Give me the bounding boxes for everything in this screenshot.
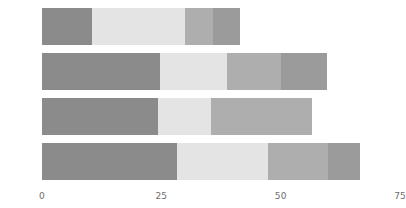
bar-segment[interactable] — [42, 98, 158, 135]
x-axis: 0 25 50 75 — [42, 186, 400, 208]
plot-area: Item 1 Item 2 Item 3 Item 4 0 25 50 75 — [42, 0, 400, 186]
bar-segment[interactable] — [227, 53, 280, 90]
bar-segment[interactable] — [42, 143, 177, 180]
bar-segment[interactable] — [177, 143, 268, 180]
bar-segment[interactable] — [160, 53, 227, 90]
bar-segment[interactable] — [158, 98, 211, 135]
bar-segment[interactable] — [42, 53, 160, 90]
bar-segment[interactable] — [211, 98, 312, 135]
x-axis-tick-label: 0 — [39, 191, 45, 201]
x-axis-tick-label: 25 — [156, 191, 168, 201]
x-axis-tick-label: 50 — [275, 191, 287, 201]
bar-segment[interactable] — [213, 8, 240, 45]
table-row[interactable] — [42, 143, 360, 180]
x-axis-tick-label: 75 — [394, 191, 406, 201]
bar-segment[interactable] — [281, 53, 327, 90]
bar-segment[interactable] — [328, 143, 360, 180]
bar-segment[interactable] — [268, 143, 328, 180]
table-row[interactable] — [42, 8, 240, 45]
bar-segment[interactable] — [92, 8, 185, 45]
table-row[interactable] — [42, 53, 327, 90]
bar-segment[interactable] — [185, 8, 213, 45]
bar-segment[interactable] — [42, 8, 92, 45]
table-row[interactable] — [42, 98, 312, 135]
